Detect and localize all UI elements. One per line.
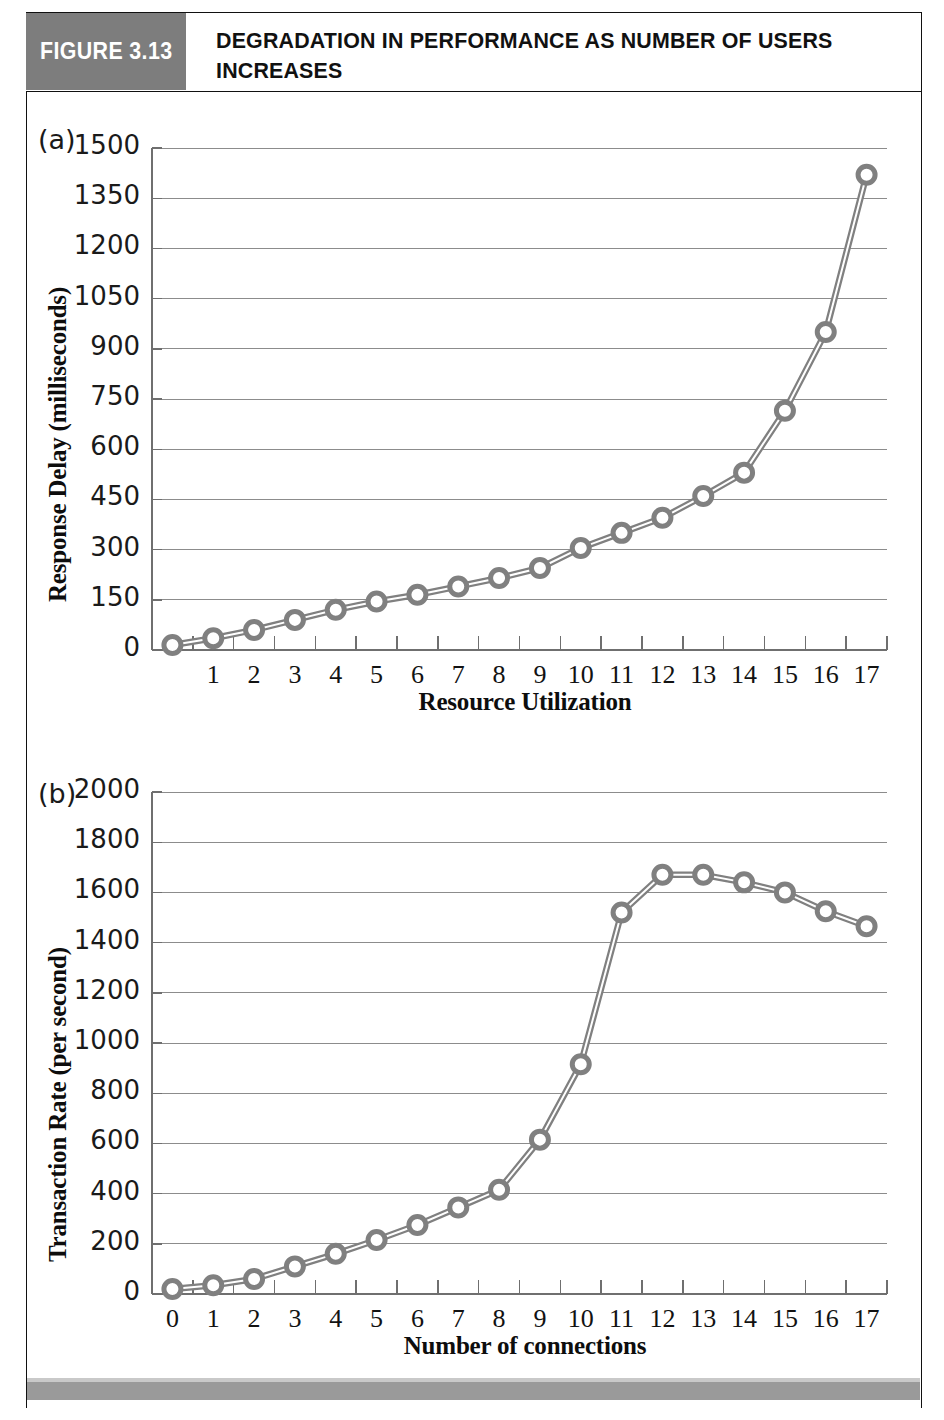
y-axis-tick-label: 1200 <box>28 975 140 1005</box>
chart-panel-b: (b) Transaction Rate (per second) Number… <box>0 752 944 1382</box>
x-axis-tick-label: 17 <box>842 660 892 690</box>
y-axis-tick-label: 0 <box>28 1276 140 1306</box>
y-axis-tick-label: 900 <box>28 331 140 361</box>
panel-b-plot <box>0 752 944 1382</box>
y-axis-tick-label: 2000 <box>28 774 140 804</box>
y-axis-tick-label: 600 <box>28 431 140 461</box>
y-axis-tick-label: 400 <box>28 1176 140 1206</box>
figure-title: DEGRADATION IN PERFORMANCE AS NUMBER OF … <box>216 26 872 86</box>
y-axis-tick-label: 1600 <box>28 874 140 904</box>
panel-a-plot <box>0 92 944 752</box>
y-axis-tick-label: 200 <box>28 1226 140 1256</box>
y-axis-tick-label: 1200 <box>28 230 140 260</box>
figure-number-label: FIGURE 3.13 <box>40 38 172 65</box>
chart-panel-a: (a) Response Delay (milliseconds) Resour… <box>0 92 944 752</box>
y-axis-tick-label: 800 <box>28 1075 140 1105</box>
y-axis-tick-label: 1000 <box>28 1025 140 1055</box>
y-axis-tick-label: 1050 <box>28 281 140 311</box>
y-axis-tick-label: 300 <box>28 532 140 562</box>
y-axis-tick-label: 600 <box>28 1125 140 1155</box>
y-axis-tick-label: 1800 <box>28 824 140 854</box>
y-axis-tick-label: 150 <box>28 582 140 612</box>
x-axis-tick-label: 17 <box>842 1304 892 1334</box>
y-axis-tick-label: 450 <box>28 481 140 511</box>
y-axis-tick-label: 750 <box>28 381 140 411</box>
y-axis-tick-label: 1350 <box>28 180 140 210</box>
y-axis-tick-label: 1400 <box>28 925 140 955</box>
footer-rule <box>27 1382 920 1400</box>
figure-header: FIGURE 3.13 DEGRADATION IN PERFORMANCE A… <box>26 12 921 92</box>
figure-number-badge: FIGURE 3.13 <box>26 13 186 90</box>
figure-page: FIGURE 3.13 DEGRADATION IN PERFORMANCE A… <box>0 0 944 1420</box>
y-axis-tick-label: 1500 <box>28 130 140 160</box>
y-axis-tick-label: 0 <box>28 632 140 662</box>
